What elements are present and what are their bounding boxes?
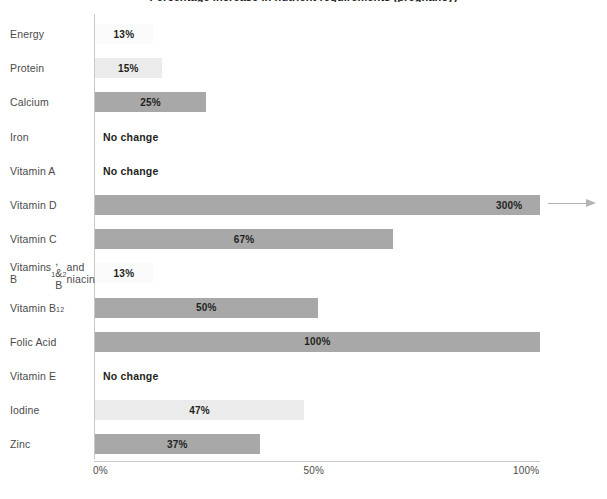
chart-row: Vitamin D300% xyxy=(0,188,607,222)
category-label: Vitamins B1,& B2 andniacin xyxy=(10,256,90,290)
chart-row: Calcium25% xyxy=(0,85,607,119)
category-label: Vitamin A xyxy=(10,154,90,188)
bar-value-label: 50% xyxy=(196,298,217,318)
category-label: Vitamin C xyxy=(10,222,90,256)
chart-title: Percentage increase in nutrient requirem… xyxy=(0,0,607,2)
x-tick-label: 50% xyxy=(304,465,325,476)
bar-value-label: 67% xyxy=(234,229,255,249)
no-change-label: No change xyxy=(103,366,158,386)
chart-row: Vitamin C67% xyxy=(0,222,607,256)
bar-chart: Percentage increase in nutrient requirem… xyxy=(0,0,607,499)
bar xyxy=(95,195,540,215)
bar-value-label: 100% xyxy=(304,332,330,352)
bar-value-label: 300% xyxy=(496,195,522,215)
plot-area: Energy13%Protein15%Calcium25%IronNo chan… xyxy=(0,14,607,459)
x-tick-label: 0% xyxy=(93,465,108,476)
category-label: Iron xyxy=(10,120,90,154)
bar-value-label: 15% xyxy=(118,58,139,78)
chart-row: Vitamin B1250% xyxy=(0,291,607,325)
chart-row: Folic Acid100% xyxy=(0,325,607,359)
chart-row: Zinc37% xyxy=(0,427,607,461)
bar-value-label: 13% xyxy=(114,263,135,283)
category-label: Folic Acid xyxy=(10,325,90,359)
chart-row: Energy13% xyxy=(0,17,607,51)
category-label: Calcium xyxy=(10,85,90,119)
chart-row: Vitamins B1,& B2 andniacin13% xyxy=(0,256,607,290)
bar-value-label: 37% xyxy=(167,434,188,454)
chart-row: Vitamin ANo change xyxy=(0,154,607,188)
category-label: Iodine xyxy=(10,393,90,427)
chart-row: Protein15% xyxy=(0,51,607,85)
bar-value-label: 13% xyxy=(114,24,135,44)
category-label: Vitamin E xyxy=(10,359,90,393)
x-tick-label: 100% xyxy=(513,465,539,476)
chart-row: Vitamin ENo change xyxy=(0,359,607,393)
bar-value-label: 25% xyxy=(140,92,161,112)
category-label: Vitamin D xyxy=(10,188,90,222)
bar-value-label: 47% xyxy=(189,400,210,420)
x-axis-ticks: 0%50%100% xyxy=(0,465,607,481)
chart-row: Iodine47% xyxy=(0,393,607,427)
category-label: Protein xyxy=(10,51,90,85)
chart-row: IronNo change xyxy=(0,120,607,154)
category-label: Vitamin B12 xyxy=(10,291,90,325)
no-change-label: No change xyxy=(103,127,158,147)
overflow-arrow-icon xyxy=(548,203,598,205)
no-change-label: No change xyxy=(103,161,158,181)
category-label: Zinc xyxy=(10,427,90,461)
category-label: Energy xyxy=(10,17,90,51)
